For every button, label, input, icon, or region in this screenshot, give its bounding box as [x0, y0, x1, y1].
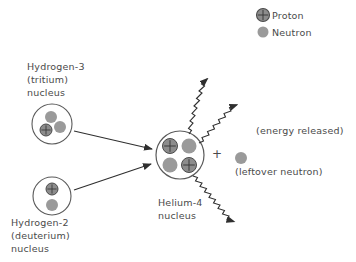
label-deuterium-line2: (deuterium): [11, 229, 70, 242]
plus-sign: +: [212, 148, 222, 161]
label-tritium-line3: nucleus: [27, 86, 85, 99]
neutron-icon: [45, 111, 57, 123]
deuterium-nucleus: [33, 177, 71, 215]
label-helium-line2: nucleus: [158, 209, 203, 222]
label-tritium-nucleus: Hydrogen-3 (tritium) nucleus: [27, 60, 85, 99]
label-deuterium-line1: Hydrogen-2: [11, 216, 70, 229]
proton-icon: [163, 139, 178, 154]
tritium-nucleus-outline: [32, 104, 72, 144]
energy-arrow-up-right: [189, 79, 208, 134]
label-deuterium-nucleus: Hydrogen-2 (deuterium) nucleus: [11, 216, 70, 255]
label-deuterium-line3: nucleus: [11, 242, 70, 255]
label-energy-released: (energy released): [256, 124, 344, 137]
label-leftover-neutron: (leftover neutron): [235, 165, 323, 178]
helium-nucleus: [156, 131, 204, 179]
neutron-icon: [182, 139, 197, 154]
legend-proton-icon: [257, 9, 270, 22]
label-helium-nucleus: Helium-4 nucleus: [158, 196, 203, 222]
helium-nucleus-outline: [156, 131, 204, 179]
energy-arrow-right: [199, 105, 237, 143]
arrow-deuterium-to-helium: [74, 164, 151, 190]
fusion-diagram-canvas: Hydrogen-3 (tritium) nucleus Hydrogen-2 …: [0, 0, 356, 262]
neutron-icon: [54, 121, 66, 133]
proton-icon: [182, 158, 197, 173]
arrow-tritium-to-helium: [74, 131, 152, 149]
neutron-icon: [163, 158, 178, 173]
legend-label-proton: Proton: [272, 9, 304, 22]
proton-icon: [46, 183, 58, 195]
leftover-neutron-icon: [235, 152, 247, 164]
proton-icon: [40, 124, 52, 136]
label-helium-line1: Helium-4: [158, 196, 203, 209]
legend-neutron-icon: [258, 27, 269, 38]
label-tritium-line1: Hydrogen-3: [27, 60, 85, 73]
tritium-nucleus: [32, 104, 72, 144]
label-tritium-line2: (tritium): [27, 73, 85, 86]
legend-label-neutron: Neutron: [272, 26, 312, 39]
neutron-icon: [46, 199, 58, 211]
